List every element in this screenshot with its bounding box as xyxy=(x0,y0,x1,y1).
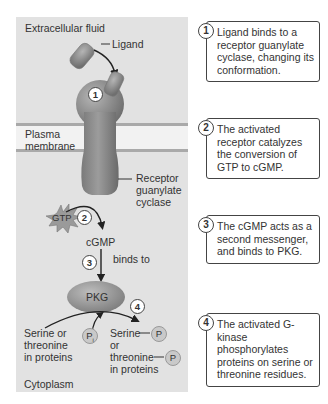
receptor-label: Receptor guanylate cyclase xyxy=(136,172,182,208)
step-3-number: 3 xyxy=(198,217,214,233)
cgmp-label: cGMP xyxy=(86,236,115,248)
pi-subscript: i xyxy=(93,337,94,343)
step-marker-4: 4 xyxy=(130,299,145,314)
ligand-label: Ligand xyxy=(112,38,144,50)
pkg-label: PKG xyxy=(86,291,108,303)
binds-to-label: binds to xyxy=(113,253,150,265)
step-marker-2: 2 xyxy=(77,210,92,225)
product-serine-label: Serine xyxy=(110,327,140,339)
phosphate-threonine: P xyxy=(165,350,181,366)
extracellular-fluid-label: Extracellular fluid xyxy=(25,22,105,34)
product-in-proteins-label: in proteins xyxy=(110,363,158,375)
step-2-text: The activated receptor catalyzes the con… xyxy=(206,118,320,179)
ligand-shape xyxy=(68,41,97,71)
plasma-membrane-label: Plasma membrane xyxy=(25,128,75,152)
cytoplasm-label: Cytoplasm xyxy=(24,378,74,390)
phosphate-serine: P xyxy=(151,326,167,342)
gtp-label: GTP xyxy=(52,212,72,224)
step-4-number: 4 xyxy=(198,315,214,331)
step-1-number: 1 xyxy=(198,23,214,39)
step-marker-3: 3 xyxy=(82,255,97,270)
substrate-label: Serine or threonine in proteins xyxy=(24,327,72,363)
inorganic-phosphate: Pi xyxy=(82,328,98,344)
step-marker-1: 1 xyxy=(88,87,103,102)
step-1-text: Ligand binds to a receptor guanylate cyc… xyxy=(206,21,320,82)
product-or-label: or xyxy=(110,339,119,351)
step-4-text: The activated G-kinase phosphorylates pr… xyxy=(206,313,320,387)
product-threonine-label: threonine xyxy=(110,351,154,363)
step-2-number: 2 xyxy=(198,120,214,136)
step-3-text: The cGMP acts as a second messenger, and… xyxy=(206,215,320,264)
